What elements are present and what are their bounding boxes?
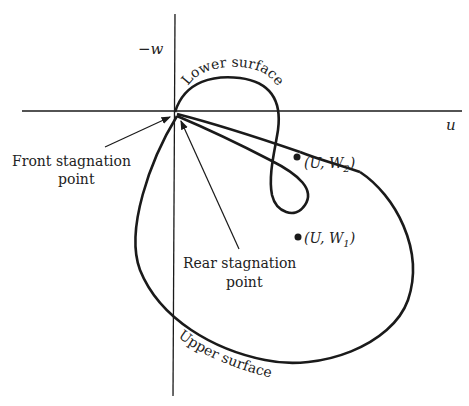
rear-stagnation-label-2: point: [226, 274, 263, 290]
lower-surface-curve: [175, 77, 308, 213]
upper-surface-label: Upper surface: [176, 327, 274, 381]
u-axis-label: u: [446, 116, 456, 134]
hodograph-diagram: −w u Lower surface Upper surface Front s…: [0, 0, 469, 406]
w-axis: [173, 14, 175, 396]
front-stagnation-arrow: [105, 117, 170, 147]
point-uw2-label: (U, W2): [304, 155, 355, 174]
lower-surface-label: Lower surface: [178, 54, 288, 89]
front-stagnation-label-2: point: [58, 171, 95, 187]
w-axis-label: −w: [138, 40, 164, 58]
point-uw1-label: (U, W1): [304, 230, 355, 249]
point-uw1-dot: [295, 234, 302, 241]
point-uw2-dot: [294, 154, 301, 161]
front-stagnation-label: Front stagnation: [12, 153, 131, 169]
rear-stagnation-label: Rear stagnation: [183, 255, 296, 271]
